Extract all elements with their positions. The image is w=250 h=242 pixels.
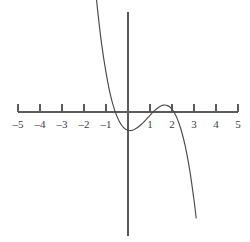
tick-label-pos3: 3 xyxy=(191,118,197,130)
tick-label-pos1: 1 xyxy=(147,118,153,130)
tick-label-neg1: –1 xyxy=(100,118,112,130)
tick-label-neg2: –2 xyxy=(78,118,90,130)
tick-label-neg5: –5 xyxy=(12,118,25,130)
graph-figure: –5 –4 –3 –2 –1 1 2 3 4 5 xyxy=(0,0,250,242)
tick-label-neg4: –4 xyxy=(34,118,47,130)
tick-label-neg3: –3 xyxy=(56,118,69,130)
tick-label-pos2: 2 xyxy=(169,118,175,130)
x-axis-tick-labels: –5 –4 –3 –2 –1 1 2 3 4 5 xyxy=(12,118,242,130)
tick-label-pos5: 5 xyxy=(235,118,241,130)
cubic-function-plot: –5 –4 –3 –2 –1 1 2 3 4 5 xyxy=(0,0,250,242)
cubic-curve xyxy=(84,0,196,218)
tick-label-pos4: 4 xyxy=(213,118,219,130)
